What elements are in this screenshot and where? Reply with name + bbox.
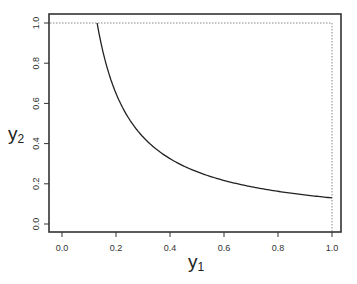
y-tick-label: 0.6: [31, 97, 41, 110]
data-curve: [97, 23, 332, 198]
y-axis-title: y2: [8, 123, 25, 146]
x-tick-label: 0.4: [164, 243, 177, 253]
y-tick-label: 0.2: [31, 178, 41, 191]
x-tick-label: 0.6: [218, 243, 231, 253]
x-axis-title: y1: [188, 251, 205, 274]
x-tick-label: 1.0: [326, 243, 339, 253]
x-tick-label: 0.8: [272, 243, 285, 253]
y-tick-label: 0.0: [31, 218, 41, 231]
plot-frame: [49, 14, 341, 232]
y-tick-label: 0.8: [31, 57, 41, 70]
x-tick-label: 0.0: [56, 243, 69, 253]
y-tick-label: 1.0: [31, 17, 41, 30]
y-tick-label: 0.4: [31, 137, 41, 150]
chart: 0.00.20.40.60.81.00.00.20.40.60.81.0 y1y…: [0, 0, 357, 284]
x-tick-label: 0.2: [110, 243, 123, 253]
